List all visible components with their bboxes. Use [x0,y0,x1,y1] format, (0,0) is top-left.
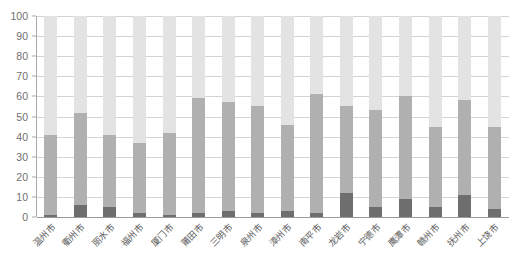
bar-segment-bottom-segment [340,193,353,217]
bar-segment-top-segment [429,16,442,127]
bar-segment-middle-segment [74,113,87,205]
bar-stack[interactable] [340,16,353,217]
x-axis-slot: 漳州市 [273,217,303,276]
x-axis-slot: 莆田市 [184,217,214,276]
y-tick-label-10: 10 [16,192,28,203]
bar-stack[interactable] [192,16,205,217]
bar-segment-top-segment [103,16,116,135]
bar-stack[interactable] [222,16,235,217]
bar-slot [213,16,243,217]
stacked-bar-chart: 0102030405060708090100 温州市衢州市丽水市福州市厦门市莆田… [0,0,515,276]
x-tick-label: 宁德市 [357,223,382,248]
x-tick-label: 抚州市 [446,223,471,248]
bar-segment-middle-segment [458,100,471,194]
bar-stack[interactable] [251,16,264,217]
y-tick-label-80: 80 [16,51,28,62]
bar-stack[interactable] [163,16,176,217]
y-tick-label-50: 50 [16,111,28,122]
bar-segment-middle-segment [222,102,235,211]
bar-segment-bottom-segment [103,207,116,217]
bar-segment-top-segment [44,16,57,135]
bar-segment-top-segment [488,16,501,127]
bar-stack[interactable] [488,16,501,217]
bar-segment-top-segment [74,16,87,112]
x-axis-slot: 龙岩市 [332,217,362,276]
bar-segment-bottom-segment [163,215,176,217]
x-tick-label: 莆田市 [180,223,205,248]
bar-segment-middle-segment [44,135,57,215]
bar-stack[interactable] [310,16,323,217]
bar-segment-bottom-segment [369,207,382,217]
bar-slot [36,16,66,217]
bar-segment-top-segment [192,16,205,98]
x-tick-label: 衢州市 [61,223,86,248]
bar-stack[interactable] [133,16,146,217]
bar-segment-middle-segment [192,98,205,213]
bar-segment-middle-segment [133,143,146,213]
x-axis-slot: 温州市 [36,217,66,276]
bar-segment-middle-segment [163,133,176,215]
y-tick-label-40: 40 [16,131,28,142]
y-tick-label-90: 90 [16,31,28,42]
x-tick-label: 南平市 [298,223,323,248]
y-tick-label-70: 70 [16,71,28,82]
bar-slot [332,16,362,217]
x-tick-label: 泉州市 [239,223,264,248]
bar-stack[interactable] [369,16,382,217]
bar-segment-middle-segment [399,96,412,199]
bar-segment-bottom-segment [281,211,294,217]
y-tick-label-20: 20 [16,172,28,183]
bar-stack[interactable] [399,16,412,217]
bar-segment-top-segment [369,16,382,110]
bar-segment-bottom-segment [488,209,501,217]
bar-segment-top-segment [399,16,412,96]
bar-stack[interactable] [44,16,57,217]
bar-segment-top-segment [163,16,176,133]
bar-segment-bottom-segment [74,205,87,217]
x-tick-label: 厦门市 [150,223,175,248]
bar-slot [125,16,155,217]
bar-segment-bottom-segment [251,213,264,217]
bar-segment-bottom-segment [458,195,471,217]
bar-segment-top-segment [310,16,323,94]
bar-segment-bottom-segment [133,213,146,217]
y-axis: 0102030405060708090100 [0,16,32,217]
bar-stack[interactable] [458,16,471,217]
y-tick-label-60: 60 [16,91,28,102]
x-axis-slot: 南平市 [302,217,332,276]
bar-slot [66,16,96,217]
bar-segment-top-segment [133,16,146,143]
bar-slot [302,16,332,217]
bar-stack[interactable] [429,16,442,217]
bar-stack[interactable] [281,16,294,217]
bar-segment-bottom-segment [44,215,57,217]
bar-slot [361,16,391,217]
bar-stack[interactable] [103,16,116,217]
x-axis-slot: 宁德市 [361,217,391,276]
bar-segment-top-segment [340,16,353,106]
bar-segment-middle-segment [310,94,323,213]
y-tick-label-30: 30 [16,151,28,162]
bar-segment-bottom-segment [310,213,323,217]
y-tick-label-100: 100 [10,11,28,22]
bar-segment-top-segment [458,16,471,100]
x-tick-label: 鹰潭市 [386,223,411,248]
x-axis: 温州市衢州市丽水市福州市厦门市莆田市三明市泉州市漳州市南平市龙岩市宁德市鹰潭市赣… [36,217,509,276]
x-tick-label: 福州市 [120,223,145,248]
bars-layer [36,16,509,217]
bar-segment-middle-segment [103,135,116,207]
bar-segment-middle-segment [251,106,264,213]
x-tick-label: 漳州市 [268,223,293,248]
x-axis-slot: 丽水市 [95,217,125,276]
bar-segment-middle-segment [429,127,442,207]
bar-segment-bottom-segment [222,211,235,217]
x-axis-slot: 泉州市 [243,217,273,276]
x-tick-label: 丽水市 [91,223,116,248]
x-tick-label: 温州市 [32,223,57,248]
x-axis-slot: 衢州市 [66,217,96,276]
bar-stack[interactable] [74,16,87,217]
x-axis-slot: 上饶市 [479,217,509,276]
bar-segment-top-segment [251,16,264,106]
bar-slot [95,16,125,217]
bar-slot [273,16,303,217]
